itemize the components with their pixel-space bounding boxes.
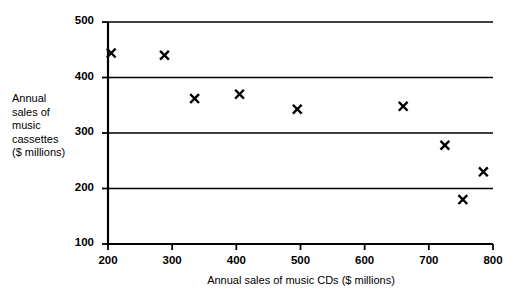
data-point bbox=[479, 167, 488, 176]
data-markers bbox=[107, 49, 488, 204]
x-tick-label: 500 bbox=[281, 254, 321, 266]
scatter-chart: Annual sales of music cassettes ($ milli… bbox=[0, 0, 505, 304]
data-point bbox=[293, 105, 302, 114]
x-tick-label: 700 bbox=[409, 254, 449, 266]
x-tick-label: 600 bbox=[345, 254, 385, 266]
y-tick-label: 100 bbox=[56, 236, 94, 248]
y-tick-label: 200 bbox=[56, 181, 94, 193]
data-point bbox=[399, 102, 408, 111]
data-point bbox=[440, 141, 449, 150]
data-point bbox=[190, 94, 199, 103]
y-tick-label: 400 bbox=[56, 70, 94, 82]
data-point bbox=[458, 195, 467, 204]
x-tick-label: 800 bbox=[473, 254, 505, 266]
x-tick-label: 300 bbox=[152, 254, 192, 266]
y-tick-label: 300 bbox=[56, 125, 94, 137]
x-tick-label: 400 bbox=[216, 254, 256, 266]
x-tick-label: 200 bbox=[88, 254, 128, 266]
data-point bbox=[235, 90, 244, 99]
y-tick-label: 500 bbox=[56, 14, 94, 26]
data-point bbox=[160, 51, 169, 60]
